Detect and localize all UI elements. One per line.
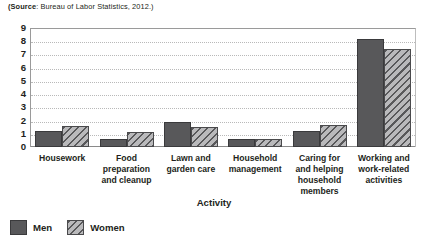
bar-women	[320, 125, 347, 147]
legend-swatch-men-icon	[10, 220, 27, 235]
y-tick-label: 5	[4, 76, 26, 86]
bar-women	[127, 132, 154, 147]
bar-chart: 0123456789	[0, 18, 428, 153]
bar-group	[357, 28, 411, 147]
y-tick-label: 9	[4, 23, 26, 33]
bar-men	[357, 39, 384, 147]
bar-group	[100, 28, 154, 147]
y-tick-label: 7	[4, 50, 26, 60]
bar-men	[100, 139, 127, 147]
y-tick-label: 6	[4, 63, 26, 73]
y-tick-label: 8	[4, 36, 26, 46]
source-note: (Source: Bureau of Labor Statistics, 201…	[8, 2, 154, 11]
bar-women	[62, 126, 89, 147]
x-tick-label: Caring forand helpinghouseholdmembers	[287, 153, 351, 197]
legend-item-women: Women	[67, 220, 124, 235]
y-tick-label: 1	[4, 129, 26, 139]
legend: Men Women	[10, 220, 133, 235]
bar-group	[293, 28, 347, 147]
x-tick-label: Householdmanagement	[223, 153, 287, 175]
y-tick-label: 4	[4, 89, 26, 99]
x-tick-label: Foodpreparationand cleanup	[94, 153, 158, 186]
y-tick-label: 2	[4, 116, 26, 126]
x-axis-categories: HouseworkFoodpreparationand cleanupLawn …	[30, 153, 416, 191]
bar-men	[164, 122, 191, 147]
x-axis-title: Activity	[0, 197, 428, 208]
legend-swatch-women-icon	[67, 220, 84, 235]
x-tick-label: Housework	[30, 153, 94, 164]
bar-women	[191, 127, 218, 147]
source-text: : Bureau of Labor Statistics, 2012.)	[36, 2, 153, 11]
bar-men	[35, 131, 62, 147]
bar-men	[228, 139, 255, 147]
bar-men	[293, 131, 320, 147]
bar-group	[35, 28, 89, 147]
y-tick-label: 3	[4, 103, 26, 113]
bar-women	[384, 49, 411, 147]
bars-layer	[30, 28, 416, 147]
source-label: (Source	[8, 2, 36, 11]
bar-group	[164, 28, 218, 147]
bar-women	[255, 139, 282, 147]
x-tick-label: Lawn andgarden care	[159, 153, 223, 175]
legend-item-men: Men	[10, 220, 52, 235]
y-axis: 0123456789	[0, 28, 26, 147]
bar-group	[228, 28, 282, 147]
legend-label-women: Women	[90, 222, 124, 233]
y-tick-label: 0	[4, 142, 26, 152]
legend-label-men: Men	[33, 222, 52, 233]
x-tick-label: Working andwork-relatedactivities	[352, 153, 416, 186]
